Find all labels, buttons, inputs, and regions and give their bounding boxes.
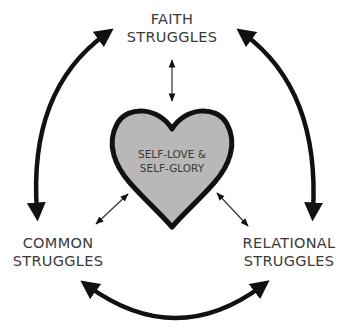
thin-arrow-relational-center <box>217 193 248 226</box>
node-common-line2: STRUGGLES <box>2 252 114 270</box>
arc-arrow-faith-relational <box>244 34 314 212</box>
center-line1: SELF-LOVE & <box>122 147 222 161</box>
node-faith-line1: FAITH <box>112 10 232 28</box>
node-common-line1: COMMON <box>2 234 114 252</box>
node-faith-struggles: FAITH STRUGGLES <box>112 10 232 46</box>
center-line2: SELF-GLORY <box>122 161 222 175</box>
node-faith-line2: STRUGGLES <box>112 28 232 46</box>
node-common-struggles: COMMON STRUGGLES <box>2 234 114 270</box>
node-relational-line2: STRUGGLES <box>228 252 350 270</box>
thin-arrow-common-center <box>96 194 128 224</box>
arc-arrow-faith-common <box>36 34 106 212</box>
node-self-love-self-glory: SELF-LOVE & SELF-GLORY <box>122 147 222 175</box>
node-relational-line1: RELATIONAL <box>228 234 350 252</box>
arc-arrow-common-relational <box>88 286 262 318</box>
node-relational-struggles: RELATIONAL STRUGGLES <box>228 234 350 270</box>
